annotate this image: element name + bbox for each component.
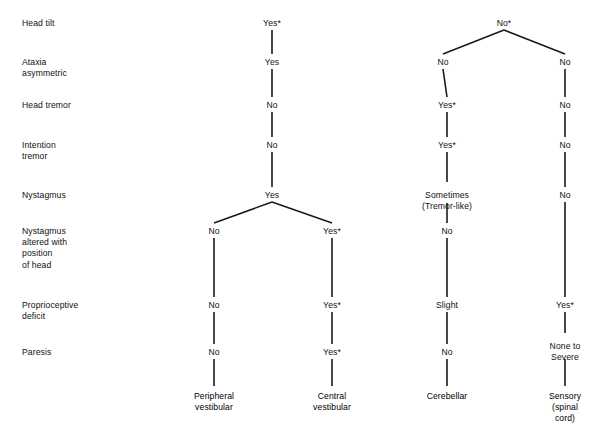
tree-node: No (208, 347, 219, 358)
tree-node: Yes* (556, 300, 574, 311)
row-label: Proprioceptive deficit (22, 300, 78, 322)
tree-node: No (559, 190, 570, 201)
tree-node: No* (497, 18, 512, 29)
decision-tree-diagram: Head tiltAtaxia asymmetricHead tremorInt… (0, 0, 608, 437)
tree-outcome: Cerebellar (427, 391, 468, 402)
tree-node: No (266, 140, 277, 151)
row-label: Paresis (22, 347, 51, 358)
row-label: Head tilt (22, 18, 54, 29)
tree-connector (272, 202, 332, 223)
tree-outcome: Sensory (spinal cord) (544, 391, 587, 425)
tree-node: None to Severe (550, 341, 581, 363)
tree-node: No (559, 57, 570, 68)
tree-node: No (208, 300, 219, 311)
row-label: Intention tremor (22, 140, 56, 162)
tree-node: Yes* (323, 300, 341, 311)
tree-node: Sometimes (Tremor-like) (422, 190, 472, 212)
tree-node: Yes* (263, 18, 281, 29)
tree-node: No (266, 100, 277, 111)
tree-connector (443, 69, 447, 97)
tree-connector (504, 30, 565, 54)
row-label: Head tremor (22, 100, 71, 111)
tree-node: Yes* (323, 226, 341, 237)
tree-node: Yes (265, 57, 279, 68)
tree-node: Yes (265, 190, 279, 201)
row-label: Nystagmus altered with position of head (22, 226, 67, 271)
tree-node: No (441, 226, 452, 237)
tree-outcome: Peripheral vestibular (194, 391, 234, 413)
row-label: Nystagmus (22, 190, 66, 201)
tree-node: Yes* (438, 100, 456, 111)
tree-node: No (208, 226, 219, 237)
connector-lines (0, 0, 608, 437)
tree-node: No (437, 57, 448, 68)
tree-outcome: Central vestibular (313, 391, 351, 413)
tree-node: No (559, 100, 570, 111)
tree-node: Yes* (323, 347, 341, 358)
tree-node: Yes* (438, 140, 456, 151)
tree-node: No (559, 140, 570, 151)
tree-node: No (441, 347, 452, 358)
tree-connector (214, 202, 272, 223)
tree-node: Slight (436, 300, 458, 311)
row-label: Ataxia asymmetric (22, 57, 67, 79)
tree-connector (443, 30, 504, 54)
